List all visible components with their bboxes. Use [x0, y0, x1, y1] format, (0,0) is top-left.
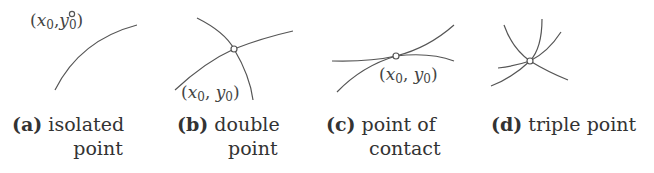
y-subscript: 0	[423, 72, 431, 86]
caption-text-line1: triple point	[528, 113, 636, 135]
contact-point-marker	[393, 53, 399, 59]
x-var: x	[386, 64, 396, 84]
x-var: x	[37, 10, 47, 30]
x-var: x	[188, 82, 198, 102]
caption-text-line2: contact	[369, 136, 486, 160]
panel-a-point-label: (x0,y0)	[30, 10, 83, 32]
caption-text-line2: point	[12, 136, 162, 160]
triple-point-marker	[527, 58, 533, 64]
y-var: y	[414, 64, 424, 84]
x-subscript: 0	[395, 72, 403, 86]
caption-letter: (b)	[177, 113, 208, 135]
double-point-marker	[231, 46, 237, 52]
caption-letter: (d)	[491, 113, 522, 135]
panel-c-caption: (c) point of contact	[326, 112, 486, 160]
caption-letter: (c)	[326, 113, 356, 135]
panel-c-point-label: (x0, y0)	[379, 64, 438, 86]
caption-text-line1: point of	[362, 113, 436, 135]
panel-a-caption: (a) isolated point	[12, 112, 162, 160]
isolated-curve	[55, 25, 137, 90]
x-subscript: 0	[197, 90, 205, 104]
panel-d-caption: (d) triple point	[491, 112, 654, 136]
y-var: y	[216, 82, 226, 102]
y-var: y	[59, 10, 69, 30]
panel-d-figure	[491, 19, 568, 86]
caption-text-line2: point	[228, 136, 327, 160]
caption-text-line1: double	[214, 113, 279, 135]
caption-text-line1: isolated	[48, 113, 124, 135]
y-subscript: 0	[69, 18, 77, 32]
panel-b-point-label: (x0, y0)	[181, 82, 240, 104]
caption-letter: (a)	[12, 113, 42, 135]
x-subscript: 0	[46, 18, 54, 32]
separator: ,	[205, 82, 210, 102]
panel-b-caption: (b) double point	[177, 112, 327, 160]
separator: ,	[403, 64, 408, 84]
branch-2-curve	[491, 19, 542, 86]
y-subscript: 0	[225, 90, 233, 104]
